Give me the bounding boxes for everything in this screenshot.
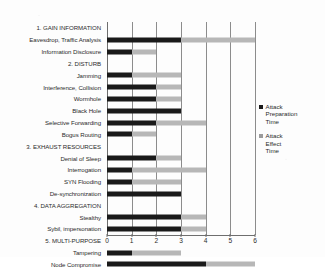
bar-segment-attack-effect-time [181, 215, 206, 220]
y-axis-label: Tampering [0, 247, 104, 259]
y-axis-label: Black Hole [0, 105, 104, 117]
bar-segment-attack-preparation-time [107, 156, 156, 161]
bar-row [107, 69, 255, 81]
y-axis-label: Bogus Routing [0, 128, 104, 140]
y-axis-label: Selective Forwarding [0, 117, 104, 129]
group-header-row [107, 22, 255, 34]
y-axis-label: Node Compromise [0, 259, 104, 270]
legend-line: Preparation [266, 110, 298, 117]
legend-line: Attack [266, 132, 283, 139]
bar-segment-attack-effect-time [156, 96, 181, 101]
bar-segment-attack-effect-time [181, 37, 255, 42]
bar-segment-attack-preparation-time [107, 85, 156, 90]
bar-row [107, 93, 255, 105]
bar-segment-attack-preparation-time [107, 262, 206, 267]
legend-line: Effect [266, 140, 282, 147]
y-axis-label: De-synchronization [0, 188, 104, 200]
bar-row [107, 211, 255, 223]
legend-item-label: Attack Preparation Time [266, 103, 298, 125]
y-axis-label: Information Disclosure [0, 46, 104, 58]
bar-segment-attack-preparation-time [107, 226, 181, 231]
bar-segment-attack-effect-time [156, 156, 181, 161]
bar-segment-attack-effect-time [156, 85, 181, 90]
bar-segment-attack-preparation-time [107, 191, 181, 196]
bar-segment-attack-preparation-time [107, 167, 132, 172]
bar-segment-attack-preparation-time [107, 108, 181, 113]
bar-row [107, 259, 255, 270]
y-axis-label: 1. GAIN INFORMATION [0, 22, 104, 34]
y-axis-label: Interrogation [0, 164, 104, 176]
y-axis-label: Wormhole [0, 93, 104, 105]
bar-segment-attack-effect-time [132, 132, 157, 137]
bar-segment-attack-preparation-time [107, 215, 181, 220]
y-axis-label: SYN Flooding [0, 176, 104, 188]
y-axis-label: Denial of Sleep [0, 152, 104, 164]
y-axis-label: 3. EXHAUST RESOURCES [0, 140, 104, 152]
y-axis-label: 4. DATA AGGREGATION [0, 199, 104, 211]
square-marker-icon [259, 105, 263, 109]
legend-item-attack-effect-time[interactable]: Attack Effect Time [259, 132, 323, 154]
bar-segment-attack-preparation-time [107, 96, 156, 101]
y-axis-label: 5. MULTI-PURPOSE [0, 235, 104, 247]
bar-row [107, 176, 255, 188]
bar-segment-attack-preparation-time [107, 37, 181, 42]
y-axis-label: Stealthy [0, 211, 104, 223]
legend-line: Attack [266, 103, 283, 110]
bar-row [107, 81, 255, 93]
bar-row [107, 164, 255, 176]
bar-row [107, 128, 255, 140]
y-axis-label: Sybil, impersonation [0, 223, 104, 235]
bar-row [107, 188, 255, 200]
bar-row [107, 34, 255, 46]
y-axis-category-labels: 1. GAIN INFORMATION Eavesdrop, Traffic A… [0, 22, 104, 235]
x-tick-label: 1 [130, 237, 134, 244]
chart-legend: Attack Preparation Time Attack Effect Ti… [259, 103, 323, 161]
bar-segment-attack-effect-time [132, 167, 206, 172]
bar-segment-attack-effect-time [132, 73, 181, 78]
x-tick-label: 5 [228, 237, 232, 244]
legend-item-attack-preparation-time[interactable]: Attack Preparation Time [259, 103, 323, 125]
bar-segment-attack-preparation-time [107, 73, 132, 78]
bar-row [107, 152, 255, 164]
group-header-row [107, 140, 255, 152]
y-axis-label: 2. DISTURB [0, 57, 104, 69]
bar-segment-attack-effect-time [156, 120, 205, 125]
x-tick-label: 0 [105, 237, 109, 244]
bar-row [107, 105, 255, 117]
bar-segment-attack-preparation-time [107, 49, 132, 54]
x-tick-label: 4 [204, 237, 208, 244]
bar-rows [107, 22, 255, 235]
bar-segment-attack-preparation-time [107, 179, 132, 184]
y-axis-label: Jamming [0, 69, 104, 81]
bar-row [107, 117, 255, 129]
bar-segment-attack-effect-time [181, 226, 206, 231]
group-header-row [107, 199, 255, 211]
legend-item-label: Attack Effect Time [266, 132, 283, 154]
y-axis-label: Eavesdrop, Traffic Analysis [0, 34, 104, 46]
bar-segment-attack-effect-time [132, 179, 181, 184]
square-marker-icon [259, 134, 263, 138]
legend-line: Time [266, 118, 280, 125]
bar-segment-attack-preparation-time [107, 132, 132, 137]
legend-line: Time [266, 147, 280, 154]
x-tick-label: 2 [154, 237, 158, 244]
x-tick-label: 6 [253, 237, 257, 244]
bar-segment-attack-preparation-time [107, 120, 156, 125]
x-tick-label: 3 [179, 237, 183, 244]
y-axis-label: Interference, Collision [0, 81, 104, 93]
group-header-row [107, 57, 255, 69]
gridline-6 [255, 22, 256, 235]
x-axis-tick-labels: 0123456 [107, 237, 255, 251]
bar-row [107, 46, 255, 58]
bar-segment-attack-effect-time [206, 262, 255, 267]
bar-segment-attack-effect-time [132, 49, 157, 54]
